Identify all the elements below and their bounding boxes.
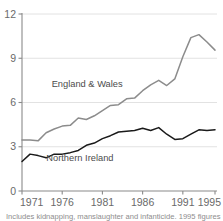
x-axis-tick-labels: 197119761981198619911995 xyxy=(20,196,221,208)
series-label: England & Wales xyxy=(52,79,123,89)
series-lines xyxy=(22,35,215,162)
line-chart: 036912 197119761981198619911995 England … xyxy=(0,0,223,221)
x-axis-tick-label: 1991 xyxy=(171,196,195,208)
x-axis-tick-label: 1986 xyxy=(131,196,155,208)
x-axis-tick-label: 1976 xyxy=(51,196,75,208)
x-axis-tick-label: 1971 xyxy=(20,196,44,208)
y-axis-tick-label: 0 xyxy=(10,185,16,197)
y-axis-tick-label: 12 xyxy=(4,8,16,20)
y-axis-tick-label: 9 xyxy=(10,52,16,64)
series-annotations: England & WalesNorthern Ireland xyxy=(46,79,123,163)
y-axis-tick-label: 6 xyxy=(10,96,16,108)
series-label: Northern Ireland xyxy=(46,153,113,163)
y-axis-tick-labels: 036912 xyxy=(4,8,16,197)
chart-footnote: Includes kidnapping, manslaughter and in… xyxy=(6,213,221,221)
y-axis-tick-label: 3 xyxy=(10,140,16,152)
chart-container: 036912 197119761981198619911995 England … xyxy=(0,0,223,221)
x-axis-tick-label: 1995 xyxy=(198,196,222,208)
x-axis-tick-label: 1981 xyxy=(91,196,115,208)
